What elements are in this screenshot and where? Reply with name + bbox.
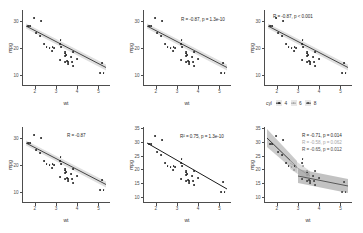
data-point	[343, 62, 345, 64]
y-tick-label: 30	[14, 19, 19, 24]
data-point	[60, 39, 62, 41]
data-point	[181, 39, 183, 41]
data-point	[39, 35, 41, 37]
data-point	[40, 20, 42, 22]
y-tick-label: 35	[135, 126, 140, 131]
data-point	[341, 191, 343, 193]
data-point	[59, 59, 61, 61]
data-point	[43, 160, 45, 162]
panel-bottom-center: 10 15 20 25 30 35 2 3 4 5 wt mpg R² = 0.…	[121, 117, 242, 233]
x-axis-title: wt	[64, 217, 69, 223]
data-point	[188, 61, 190, 63]
data-point	[59, 43, 61, 45]
data-point	[59, 176, 61, 178]
data-point	[60, 156, 62, 158]
data-point	[160, 35, 162, 37]
data-point	[312, 175, 314, 177]
data-point	[313, 180, 315, 182]
x-tick-label: 4	[318, 89, 320, 94]
data-point	[314, 51, 316, 53]
data-point	[71, 61, 73, 63]
legend-key-6[interactable]	[291, 100, 297, 106]
data-point	[288, 165, 290, 167]
data-point	[67, 61, 69, 63]
data-point	[275, 17, 277, 19]
data-point	[269, 25, 271, 27]
stat-annotation: R = -0.87	[67, 133, 86, 138]
data-point	[101, 179, 103, 181]
data-point	[309, 182, 311, 184]
data-point	[70, 173, 72, 175]
data-point	[72, 65, 74, 67]
y-tick-label: 10	[135, 73, 140, 78]
data-point	[220, 72, 222, 74]
legend-key-4[interactable]	[276, 100, 282, 106]
legend-key-8[interactable]	[305, 100, 311, 106]
data-point	[150, 25, 152, 27]
data-point	[277, 151, 279, 153]
data-point	[99, 189, 101, 191]
data-point	[343, 181, 345, 183]
data-point	[281, 35, 283, 37]
data-point	[314, 170, 316, 172]
data-point	[306, 61, 308, 63]
legend-label-6: 6	[299, 101, 302, 106]
data-point	[302, 39, 304, 41]
data-point	[46, 46, 48, 48]
data-point	[185, 180, 187, 182]
data-point	[345, 191, 347, 193]
data-point	[314, 65, 316, 67]
data-point	[101, 62, 103, 64]
legend-title: cyl	[266, 101, 272, 106]
data-point	[192, 61, 194, 63]
data-point	[180, 179, 182, 181]
data-point	[313, 61, 315, 63]
data-point	[185, 51, 187, 53]
data-point	[51, 50, 53, 52]
regression-overlay-4	[22, 127, 110, 203]
plot-area-1: 10 20 30 2 3 4 5 wt mpg	[22, 10, 110, 86]
data-point	[103, 189, 105, 191]
data-point	[301, 59, 303, 61]
data-point	[77, 175, 79, 177]
data-point	[33, 134, 35, 136]
data-point	[35, 32, 37, 34]
data-point	[185, 174, 187, 176]
data-point	[181, 158, 183, 160]
data-point	[301, 179, 303, 181]
x-axis-title: wt	[64, 100, 69, 106]
data-point	[198, 177, 200, 179]
x-axis-title: wt	[185, 217, 190, 223]
panel-top-center: 10 20 30 2 3 4 5 wt mpg R = -0.87, p = 1…	[121, 0, 242, 116]
plot-area-5: 10 15 20 25 30 35 2 3 4 5 wt mpg R² = 0.…	[143, 127, 231, 203]
panel-bottom-left: 10 20 30 2 3 4 5 wt mpg R = -0.87	[0, 117, 121, 233]
x-tick-label: 3	[176, 89, 178, 94]
data-point	[67, 180, 69, 182]
y-tick-label: 20	[135, 167, 140, 172]
data-point	[173, 46, 175, 48]
data-point	[285, 43, 287, 45]
data-point	[148, 25, 150, 27]
data-point	[198, 58, 200, 60]
data-point	[188, 63, 190, 65]
x-tick-label: 5	[339, 206, 341, 211]
data-point	[220, 191, 222, 193]
data-point	[180, 162, 182, 164]
data-point	[309, 61, 311, 63]
data-point	[71, 178, 73, 180]
data-point	[29, 25, 31, 27]
x-tick-label: 5	[97, 89, 99, 94]
data-point	[312, 56, 314, 58]
data-point	[167, 165, 169, 167]
data-point	[193, 65, 195, 67]
data-point	[156, 151, 158, 153]
data-point	[51, 167, 53, 169]
data-point	[156, 32, 158, 34]
plot-area-3: 10 20 30 2 3 4 5 wt mpg R = -0.87, p < 0…	[264, 10, 352, 86]
x-tick-label: 4	[318, 206, 320, 211]
y-axis-title: mpg	[249, 160, 255, 170]
data-point	[302, 165, 304, 167]
data-point	[306, 174, 308, 176]
panel-top-right: 10 20 30 2 3 4 5 wt mpg R = -0.87, p < 0…	[242, 0, 363, 116]
data-point	[67, 63, 69, 65]
